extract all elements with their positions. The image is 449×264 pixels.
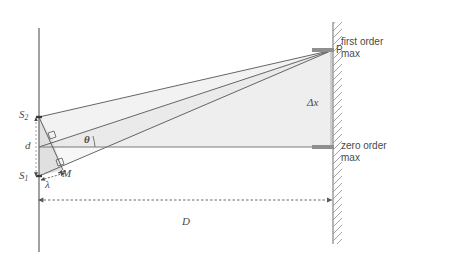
slit-s1-subscript: 1 [25, 174, 29, 183]
slit-s2-subscript: 2 [25, 113, 29, 122]
first-order-max-line2: max [341, 48, 383, 60]
midpoint-m-label: M [62, 167, 71, 180]
diffraction-diagram: first order max zero order max P S2 S1 d… [0, 0, 449, 264]
zero-order-max-line1: zero order [341, 140, 387, 152]
slit-separation-label: d [25, 139, 31, 152]
path-difference-label: Δx [307, 96, 318, 109]
zero-order-max-label: zero order max [341, 140, 387, 163]
slit-s2-label: S2 [19, 108, 28, 122]
slit-s1-label: S1 [19, 169, 28, 183]
first-order-max-line1: first order [341, 36, 383, 48]
first-order-max-label: first order max [341, 36, 383, 59]
point-p-label: P [336, 44, 343, 56]
distance-d-label: D [182, 215, 190, 228]
wavelength-label: λ [45, 178, 50, 191]
theta-angle-label: θ [84, 133, 90, 146]
zero-order-max-line2: max [341, 152, 387, 164]
